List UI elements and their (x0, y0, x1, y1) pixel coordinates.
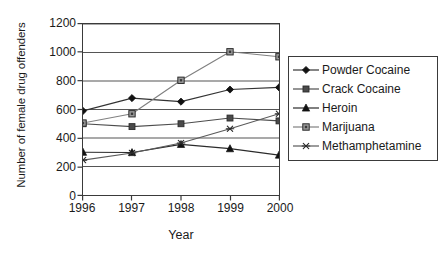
x-axis-title: Year (82, 228, 280, 242)
x-tick-label: 1999 (217, 201, 244, 215)
data-point-outlined-square (178, 77, 184, 83)
series-line (83, 52, 279, 123)
legend-marker-outlined-square-icon (292, 120, 320, 134)
plot-svg (83, 24, 279, 195)
data-point-asterisk (226, 126, 234, 131)
data-point-diamond (302, 66, 309, 73)
data-point-filled-square (276, 118, 279, 124)
legend-item[interactable]: Methamphetamine (292, 137, 433, 156)
x-tick-label: 2000 (267, 201, 294, 215)
data-point-filled-square (178, 121, 184, 127)
legend-item-label: Marijuana (320, 120, 375, 134)
legend-marker-triangle-icon (292, 101, 320, 115)
chart-legend: Powder CocaineCrack CocaineHeroinMarijua… (288, 56, 438, 161)
legend-marker-asterisk-icon (292, 139, 320, 153)
y-axis-title: Number of female drug offenders (14, 5, 28, 205)
line-chart: Number of female drug offenders 02004006… (0, 0, 444, 258)
legend-item-label: Crack Cocaine (320, 82, 401, 96)
y-tick-label: 400 (36, 132, 76, 144)
legend-item[interactable]: Marijuana (292, 118, 433, 137)
data-point-diamond (226, 86, 233, 93)
data-point-filled-square (227, 115, 233, 121)
y-axis-tick-labels: 020040060080010001200 (36, 0, 76, 258)
data-point-outlined-square (227, 49, 233, 55)
y-tick-label: 600 (36, 104, 76, 116)
data-point-filled-square (129, 124, 135, 130)
data-point-outlined-square (276, 54, 279, 60)
data-point-filled-square (303, 86, 309, 92)
data-point-diamond (177, 98, 184, 105)
series-marijuana (83, 49, 279, 127)
y-axis-ticks (76, 23, 83, 196)
legend-item-label: Methamphetamine (320, 139, 421, 153)
data-point-asterisk (302, 144, 310, 149)
data-point-diamond (83, 107, 87, 114)
legend-item[interactable]: Crack Cocaine (292, 79, 433, 98)
x-tick-label: 1997 (118, 201, 145, 215)
data-point-outlined-square (83, 120, 86, 126)
x-axis-tick-labels: 19961997199819992000 (82, 201, 280, 217)
x-tick-label: 1998 (168, 201, 195, 215)
y-tick-label: 1200 (36, 17, 76, 29)
x-tick-label: 1996 (69, 201, 96, 215)
legend-item-label: Heroin (320, 101, 357, 115)
y-tick-label: 1000 (36, 46, 76, 58)
legend-marker-diamond-icon (292, 63, 320, 77)
x-axis-ticks (82, 196, 280, 202)
y-tick-label: 200 (36, 161, 76, 173)
legend-marker-filled-square-icon (292, 82, 320, 96)
legend-item[interactable]: Heroin (292, 98, 433, 117)
data-point-asterisk (83, 157, 87, 162)
data-point-diamond (275, 84, 279, 91)
data-point-asterisk (275, 111, 279, 116)
data-point-diamond (128, 95, 135, 102)
legend-item-label: Powder Cocaine (320, 63, 410, 77)
y-tick-label: 800 (36, 75, 76, 87)
data-point-outlined-square (303, 124, 309, 130)
plot-area (82, 23, 280, 196)
data-point-outlined-square (129, 111, 135, 117)
legend-item[interactable]: Powder Cocaine (292, 60, 433, 79)
